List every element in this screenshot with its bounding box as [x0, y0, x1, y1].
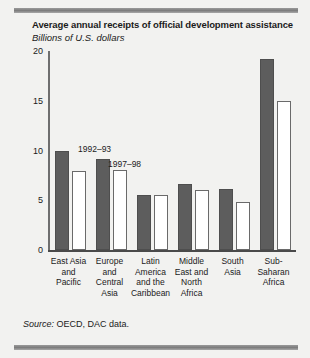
chart-subtitle: Billions of U.S. dollars: [32, 32, 124, 43]
y-tick-label: 20: [33, 46, 43, 56]
bar-group: [260, 51, 291, 250]
bar-group: [137, 51, 168, 250]
bar-series-2: [154, 195, 168, 250]
top-rule: [14, 8, 298, 13]
source-note: Source: OECD, DAC data.: [23, 319, 129, 329]
bar-series-2: [236, 202, 250, 250]
bar-group: [178, 51, 209, 250]
series-2-annotation: 1997–98: [108, 159, 141, 169]
bar-series-1: [55, 151, 69, 251]
bar-series-2: [195, 190, 209, 250]
figure-panel: Average annual receipts of official deve…: [0, 0, 310, 358]
bar-series-2: [72, 171, 86, 250]
bar-series-1: [96, 159, 110, 250]
bar-series-1: [137, 195, 151, 250]
source-prefix: Source:: [23, 319, 54, 329]
y-tick-label: 10: [33, 146, 43, 156]
x-axis-labels: East AsiaandPacificEuropeandCentralAsiaL…: [48, 256, 298, 316]
bottom-rule: [14, 345, 298, 350]
chart-title: Average annual receipts of official deve…: [32, 19, 293, 30]
bar-group: [219, 51, 250, 250]
y-tick-label: 0: [38, 245, 43, 255]
bar-series-1: [260, 59, 274, 250]
x-axis-line: [48, 250, 296, 252]
bar-series-1: [219, 189, 233, 250]
source-text: OECD, DAC data.: [54, 319, 129, 329]
x-axis-label: Sub-SaharanAfrica: [249, 256, 298, 288]
bar-series-2: [277, 101, 291, 250]
y-tick-label: 15: [33, 96, 43, 106]
y-tick-label: 5: [38, 195, 43, 205]
series-1-annotation: 1992–93: [78, 144, 111, 154]
bar-series-1: [178, 184, 192, 250]
bar-series-2: [113, 170, 127, 250]
